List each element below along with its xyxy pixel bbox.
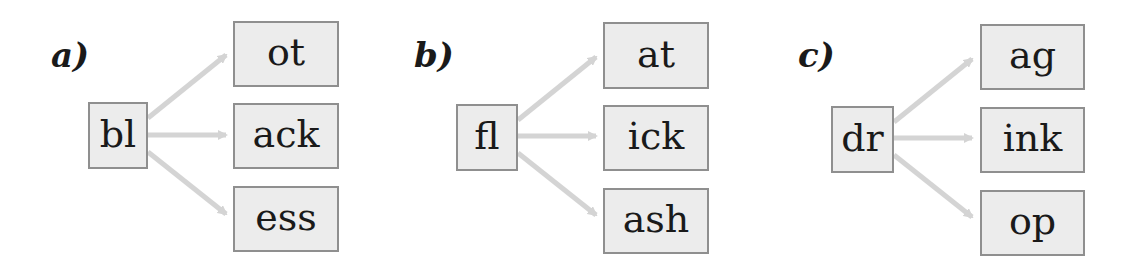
source-box: dr: [831, 106, 894, 173]
source-text: dr: [841, 119, 884, 157]
target-text: ag: [1009, 36, 1056, 74]
source-text: bl: [100, 115, 136, 153]
target-box: ack: [233, 103, 339, 169]
target-text: ack: [253, 115, 320, 153]
arrow-icon: [148, 152, 226, 214]
target-text: ess: [255, 198, 317, 236]
source-box: fl: [456, 104, 518, 171]
arrow-icon: [518, 57, 596, 120]
arrow-icon: [894, 59, 972, 122]
panel-b: b) fl at ick ash: [380, 0, 760, 268]
source-text: fl: [474, 117, 499, 155]
target-text: op: [1009, 202, 1056, 240]
target-text: at: [637, 35, 675, 73]
target-text: ink: [1003, 119, 1063, 157]
arrow-icon: [894, 155, 972, 217]
arrow-icon: [518, 153, 596, 215]
target-box: ot: [233, 21, 339, 87]
target-box: ink: [980, 107, 1085, 173]
target-box: ag: [980, 24, 1085, 90]
panel-c: c) dr ag ink op: [760, 0, 1136, 268]
panel-a: a) bl ot ack ess: [0, 0, 380, 268]
target-box: ick: [603, 105, 709, 171]
arrow-icon: [148, 55, 226, 118]
target-box: at: [603, 22, 709, 89]
source-box: bl: [88, 102, 148, 169]
target-box: op: [980, 190, 1085, 256]
target-box: ash: [603, 188, 709, 254]
target-box: ess: [233, 186, 339, 252]
target-text: ot: [267, 33, 305, 71]
target-text: ick: [628, 117, 684, 155]
target-text: ash: [623, 200, 690, 238]
